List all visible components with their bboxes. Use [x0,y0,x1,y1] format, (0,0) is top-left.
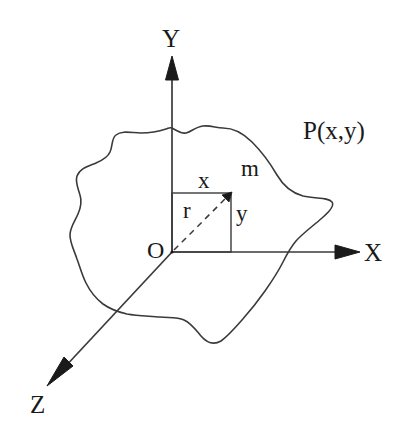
x-axis-label: X [364,240,382,265]
x-component-label: x [198,169,210,192]
diagram-canvas: Y X Z O P(x,y) m x y r [0,0,399,429]
point-label: P(x,y) [303,118,365,143]
r-radius-label: r [183,199,191,222]
mass-label: m [241,157,259,180]
y-component-label: y [236,202,248,225]
y-axis-arrowhead-icon [166,56,179,80]
x-axis-arrowhead-icon [335,245,360,259]
y-axis-label: Y [162,26,180,51]
origin-point-marker [170,250,173,253]
lamina-blob-outline [70,126,333,343]
diagram-vector-layer [0,0,399,429]
z-axis-label: Z [30,392,45,417]
origin-label: O [147,238,164,262]
z-axis-line [63,252,172,369]
